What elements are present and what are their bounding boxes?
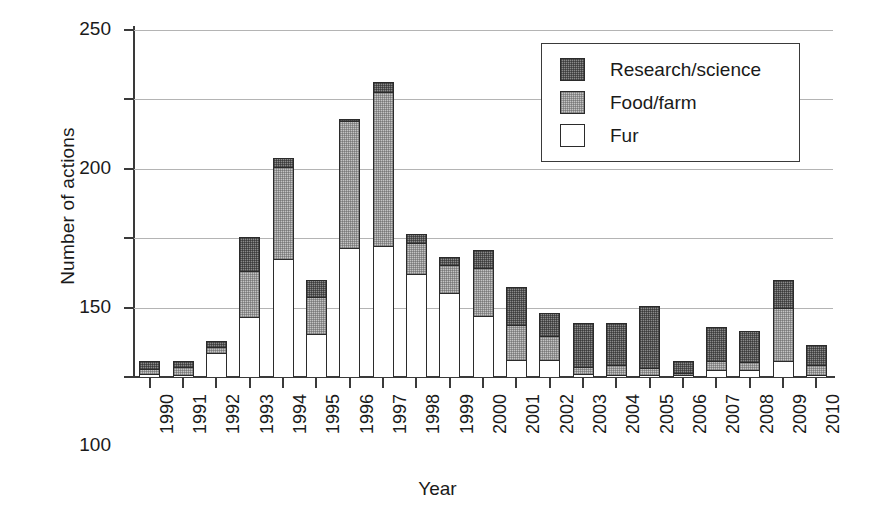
- bar-stack: [606, 323, 627, 377]
- x-tick-label: 1998: [423, 394, 444, 434]
- x-tick-mark: [315, 378, 317, 388]
- bar-segment-fur: [473, 316, 494, 377]
- bar-segment-food-farm: [806, 365, 827, 375]
- x-tick-label: 2003: [590, 394, 611, 434]
- bar-segment-food-farm: [239, 271, 260, 317]
- bar-segment-food-farm: [773, 308, 794, 361]
- bar-segment-fur: [506, 360, 527, 377]
- x-tick-mark: [415, 378, 417, 388]
- legend-item[interactable]: Fur: [542, 119, 799, 152]
- bar-segment-food-farm: [439, 265, 460, 293]
- food-swatch: [560, 91, 585, 114]
- x-tick-mark: [482, 378, 484, 388]
- x-tick-label: 2006: [690, 394, 711, 434]
- bar-segment-research-science: [606, 323, 627, 365]
- research-swatch: [560, 58, 585, 81]
- x-tick-mark: [582, 378, 584, 388]
- bar-stack: [206, 341, 227, 377]
- bar-segment-food-farm: [173, 367, 194, 376]
- bar-segment-food-farm: [706, 361, 727, 370]
- bar-segment-food-farm: [573, 367, 594, 374]
- bar-segment-fur: [239, 317, 260, 377]
- x-tick-mark: [282, 378, 284, 388]
- bar-segment-fur: [706, 370, 727, 377]
- bar-stack: [773, 280, 794, 377]
- bar-segment-fur: [639, 375, 660, 377]
- bar-stack: [573, 323, 594, 377]
- bar-stack: [373, 82, 394, 377]
- bar-segment-fur: [439, 293, 460, 377]
- x-tick-label: 1990: [157, 394, 178, 434]
- bar-segment-research-science: [806, 345, 827, 365]
- bar-stack: [706, 327, 727, 377]
- bar-stack: [173, 361, 194, 377]
- x-tick-mark: [515, 378, 517, 388]
- bar-segment-fur: [406, 274, 427, 377]
- x-tick-label: 1995: [323, 394, 344, 434]
- bar-segment-fur: [306, 334, 327, 377]
- bar-segment-food-farm: [273, 167, 294, 259]
- bar-segment-research-science: [373, 82, 394, 92]
- x-tick-label: 1999: [457, 394, 478, 434]
- x-tick-label: 2007: [723, 394, 744, 434]
- x-tick-label: 1994: [290, 394, 311, 434]
- bar-segment-research-science: [739, 331, 760, 362]
- x-tick-mark: [149, 378, 151, 388]
- chart-figure: Number of actions 050100150200250 199019…: [0, 0, 875, 523]
- x-tick-mark: [749, 378, 751, 388]
- bar-stack: [806, 345, 827, 377]
- x-tick-mark: [815, 378, 817, 388]
- bar-segment-food-farm: [539, 336, 560, 360]
- chart-legend: Research/scienceFood/farmFur: [541, 43, 800, 162]
- bar-segment-food-farm: [473, 268, 494, 316]
- bar-segment-food-farm: [606, 365, 627, 375]
- bar-segment-fur: [673, 375, 694, 377]
- y-axis-title: Number of actions: [57, 26, 79, 386]
- bar-stack: [306, 280, 327, 377]
- x-tick-label: 1993: [257, 394, 278, 434]
- x-tick-mark: [382, 378, 384, 388]
- bar-segment-research-science: [139, 361, 160, 370]
- x-tick-mark: [182, 378, 184, 388]
- legend-item-label: Fur: [610, 125, 639, 147]
- bar-segment-food-farm: [506, 325, 527, 360]
- bar-segment-research-science: [673, 361, 694, 374]
- y-tick-label: 150: [79, 296, 111, 318]
- bar-segment-food-farm: [739, 362, 760, 369]
- bar-stack: [539, 313, 560, 377]
- bar-stack: [473, 250, 494, 377]
- bar-stack: [506, 287, 527, 377]
- x-tick-label: 2008: [757, 394, 778, 434]
- x-tick-mark: [249, 378, 251, 388]
- x-tick-mark: [715, 378, 717, 388]
- bar-segment-research-science: [573, 323, 594, 366]
- x-tick-label: 2004: [623, 394, 644, 434]
- bar-segment-fur: [773, 361, 794, 377]
- x-tick-label: 2009: [790, 394, 811, 434]
- bar-segment-research-science: [406, 234, 427, 243]
- x-tick-mark: [349, 378, 351, 388]
- bar-segment-fur: [339, 248, 360, 377]
- x-tick-label: 1992: [223, 394, 244, 434]
- legend-item[interactable]: Research/science: [542, 53, 799, 86]
- bar-segment-food-farm: [306, 297, 327, 333]
- bar-stack: [639, 306, 660, 377]
- x-tick-mark: [682, 378, 684, 388]
- bar-stack: [339, 119, 360, 377]
- bar-segment-fur: [739, 370, 760, 377]
- x-tick-mark: [449, 378, 451, 388]
- bar-segment-research-science: [539, 313, 560, 336]
- bar-segment-research-science: [639, 306, 660, 367]
- bar-segment-fur: [173, 375, 194, 377]
- bar-stack: [139, 361, 160, 377]
- x-tick-mark: [215, 378, 217, 388]
- bar-segment-fur: [139, 374, 160, 377]
- x-tick-label: 1997: [390, 394, 411, 434]
- legend-item-label: Food/farm: [610, 92, 697, 114]
- x-tick-label: 2000: [490, 394, 511, 434]
- bar-segment-food-farm: [639, 368, 660, 375]
- bar-segment-fur: [539, 360, 560, 377]
- x-tick-label: 2002: [557, 394, 578, 434]
- bar-segment-food-farm: [339, 121, 360, 248]
- legend-item[interactable]: Food/farm: [542, 86, 799, 119]
